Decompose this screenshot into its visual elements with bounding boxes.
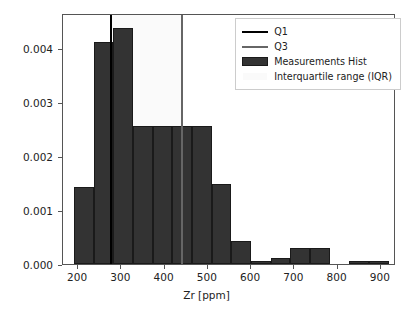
x-axis-label: Zr [ppm] (0, 289, 413, 301)
histogram-bar (369, 261, 388, 264)
legend: Q1Q3Measurements HistInterquartile range… (235, 18, 401, 90)
x-tick (207, 265, 208, 269)
y-tick-label: 0.002 (0, 151, 53, 163)
legend-item: Q1 (242, 24, 392, 39)
x-tick (120, 265, 121, 269)
legend-key (242, 41, 268, 52)
x-tick (337, 265, 338, 269)
histogram-bar (290, 248, 309, 264)
legend-item: Q3 (242, 39, 392, 54)
histogram-bar (251, 261, 270, 264)
x-tick-label: 700 (283, 271, 303, 283)
y-tick (58, 157, 62, 158)
x-tick-label: 500 (197, 271, 217, 283)
legend-label: Q1 (274, 26, 288, 37)
histogram-bar (113, 28, 133, 264)
histogram-bar (349, 261, 369, 264)
legend-item: Interquartile range (IQR) (242, 69, 392, 84)
legend-line-swatch (242, 46, 268, 48)
y-tick-label: 0.003 (0, 97, 53, 109)
x-tick-label: 900 (370, 271, 390, 283)
y-tick (58, 211, 62, 212)
histogram-bar (212, 184, 231, 264)
y-tick-label: 0.004 (0, 43, 53, 55)
y-tick-label: 0.001 (0, 205, 53, 217)
x-tick-label: 400 (154, 271, 174, 283)
x-tick-label: 200 (67, 271, 87, 283)
figure: 2003004005006007008009000.0000.0010.0020… (0, 0, 413, 310)
x-tick (250, 265, 251, 269)
x-tick-label: 800 (327, 271, 347, 283)
x-tick (380, 265, 381, 269)
x-tick-label: 600 (240, 271, 260, 283)
x-tick (293, 265, 294, 269)
legend-line-swatch (242, 31, 268, 33)
legend-patch-swatch (242, 72, 268, 81)
legend-key (242, 26, 268, 37)
legend-item: Measurements Hist (242, 54, 392, 69)
histogram-bar (74, 187, 94, 264)
x-tick-label: 300 (110, 271, 130, 283)
y-tick (58, 103, 62, 104)
legend-label: Measurements Hist (274, 56, 367, 67)
histogram-bar (310, 248, 330, 264)
y-tick (58, 49, 62, 50)
histogram-bar (231, 241, 251, 264)
legend-label: Interquartile range (IQR) (274, 71, 392, 82)
legend-key (242, 71, 268, 82)
legend-label: Q3 (274, 41, 288, 52)
quartile-line-q1 (110, 15, 112, 264)
histogram-bar (192, 126, 212, 264)
legend-key (242, 56, 268, 67)
histogram-bar (271, 258, 291, 264)
legend-patch-swatch (242, 57, 268, 66)
histogram-bar (153, 126, 173, 264)
x-tick (77, 265, 78, 269)
y-tick-label: 0.000 (0, 259, 53, 271)
x-tick (164, 265, 165, 269)
quartile-line-q3 (181, 15, 183, 264)
histogram-bar (133, 126, 152, 264)
y-tick (58, 265, 62, 266)
